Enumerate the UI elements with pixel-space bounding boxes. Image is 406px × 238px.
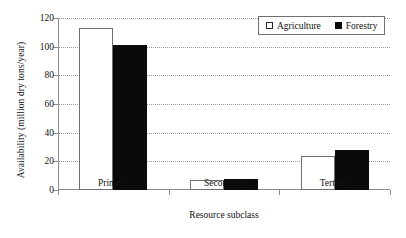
x-tick — [279, 190, 280, 195]
legend-item-agriculture: Agriculture — [266, 21, 321, 31]
filled-square-icon — [335, 22, 342, 29]
y-tick-label: 20 — [14, 156, 54, 166]
x-tick-label: Primary — [98, 178, 129, 188]
legend-item-forestry: Forestry — [335, 21, 378, 31]
legend-label-forestry: Forestry — [346, 21, 378, 31]
y-tick-label: 60 — [14, 99, 54, 109]
y-tick-label: 100 — [14, 42, 54, 52]
chart-figure: Availability (million dry tons/year) 020… — [0, 0, 406, 238]
legend: Agriculture Forestry — [258, 16, 385, 35]
x-axis-title: Resource subclass — [58, 210, 390, 220]
y-tick-label: 40 — [14, 128, 54, 138]
x-tick-label: Secondary — [204, 178, 244, 188]
x-tick-label: Tertiary — [320, 178, 350, 188]
y-tick-label: 120 — [14, 13, 54, 23]
y-tick-label: 0 — [14, 185, 54, 195]
bar-primary-agriculture — [79, 28, 113, 190]
y-tick-label: 80 — [14, 70, 54, 80]
x-tick — [390, 190, 391, 195]
bar-primary-forestry — [113, 45, 147, 190]
x-tick — [169, 190, 170, 195]
x-tick — [58, 190, 59, 195]
legend-label-agriculture: Agriculture — [277, 21, 321, 31]
hollow-square-icon — [266, 22, 273, 29]
plot-area — [58, 18, 390, 190]
